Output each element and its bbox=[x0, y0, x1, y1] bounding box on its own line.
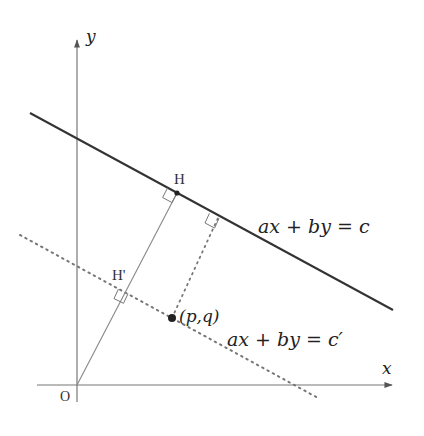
y-axis-label: y bbox=[85, 26, 96, 46]
x-axis-label: x bbox=[382, 358, 392, 378]
point-h bbox=[174, 190, 179, 195]
main-line-equation: ax + by = c bbox=[258, 215, 370, 237]
point-p-label: (p,q) bbox=[179, 306, 219, 326]
point-h-prime-label: H' bbox=[112, 267, 126, 283]
right-angle-mark-h bbox=[163, 188, 177, 203]
main-line bbox=[30, 113, 393, 310]
point-h-label: H bbox=[174, 171, 185, 187]
perpendicular-p-line bbox=[172, 218, 218, 318]
perpendicular-o-h bbox=[77, 193, 177, 385]
origin-label: O bbox=[60, 389, 70, 404]
distance-point-line-diagram: x y O H H' (p,q) ax + by = c ax + by = c… bbox=[0, 0, 424, 436]
point-p bbox=[168, 314, 176, 322]
parallel-line-equation: ax + by = c′ bbox=[227, 328, 344, 350]
